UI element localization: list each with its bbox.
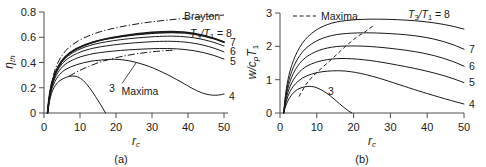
curve-b-3 bbox=[284, 86, 352, 113]
x-tick-label-b-50: 50 bbox=[458, 121, 470, 133]
panel-b-x-axis-title: rc bbox=[368, 134, 376, 149]
y-axis-title-sub: th bbox=[8, 55, 17, 62]
curve-label-a-5: 5 bbox=[230, 55, 236, 67]
x-tick-label-40: 40 bbox=[182, 121, 194, 133]
y-tick-label-b-3: 3 bbox=[266, 7, 272, 19]
curve-a-7 bbox=[48, 36, 225, 113]
curve-a-5 bbox=[48, 49, 225, 113]
curve-a-maxima bbox=[69, 50, 175, 76]
x-tick-label-10: 10 bbox=[74, 121, 86, 133]
svg-text:w/cpT1: w/cpT1 bbox=[245, 44, 260, 79]
x-tick-label-30: 30 bbox=[146, 121, 158, 133]
panel-a-sub-label: (a) bbox=[114, 153, 127, 165]
curve-a-3 bbox=[48, 76, 106, 113]
panel-a-x-tick-labels: 0 10 20 30 40 50 bbox=[41, 121, 230, 133]
x-tick-label-20: 20 bbox=[110, 121, 122, 133]
figure-container: 0 0.2 0.4 0.6 0.8 0 10 20 30 40 50 ηth r… bbox=[0, 0, 486, 167]
curve-b-5 bbox=[284, 58, 464, 113]
panel-b-y-tick-labels: 0 1 2 3 bbox=[266, 7, 272, 119]
chart-panel-b: 0 1 2 3 0 10 20 30 40 50 w/cpT1 rc (b) bbox=[243, 0, 486, 167]
curve-label-b-3: 3 bbox=[328, 85, 334, 97]
y-tick-label-0.6: 0.6 bbox=[21, 31, 36, 43]
curve-b-maxima bbox=[299, 25, 375, 97]
maxima-leader-line bbox=[122, 63, 136, 84]
x-tick-label-0: 0 bbox=[41, 121, 47, 133]
curve-label-a-3: 3 bbox=[109, 82, 115, 94]
curve-label-b-5: 5 bbox=[469, 76, 475, 88]
panel-b-svg: 0 1 2 3 0 10 20 30 40 50 w/cpT1 rc (b) bbox=[243, 0, 486, 167]
maxima-legend-label: Maxima bbox=[321, 10, 358, 22]
panel-b-axes bbox=[275, 13, 464, 118]
chart-panel-a: 0 0.2 0.4 0.6 0.8 0 10 20 30 40 50 ηth r… bbox=[0, 0, 243, 167]
curve-label-b-4: 4 bbox=[469, 98, 475, 110]
ratio-label-a: T3/T1 = 8 bbox=[190, 27, 232, 41]
curve-b-7 bbox=[284, 33, 464, 113]
y-tick-label-b-2: 2 bbox=[266, 40, 272, 52]
y-tick-label-0.8: 0.8 bbox=[21, 6, 36, 18]
y-tick-label-0: 0 bbox=[30, 107, 36, 119]
panel-b-x-tick-labels: 0 10 20 30 40 50 bbox=[277, 121, 470, 133]
maxima-label-a: Maxima bbox=[122, 85, 159, 97]
panel-a-x-axis-title: rc bbox=[132, 134, 140, 149]
y-tick-label-b-1: 1 bbox=[266, 74, 272, 86]
x-tick-label-b-20: 20 bbox=[347, 121, 359, 133]
panel-b-y-axis-title: w/cpT1 bbox=[245, 44, 260, 79]
y-tick-label-0.2: 0.2 bbox=[21, 82, 36, 94]
x-tick-label-b-0: 0 bbox=[277, 121, 283, 133]
x-tick-label-50: 50 bbox=[218, 121, 230, 133]
curve-label-b-6: 6 bbox=[469, 60, 475, 72]
panel-a-y-tick-labels: 0 0.2 0.4 0.6 0.8 bbox=[21, 6, 36, 119]
curve-label-a-4: 4 bbox=[229, 90, 235, 102]
x-tick-label-b-40: 40 bbox=[421, 121, 433, 133]
panel-b-curves bbox=[284, 19, 464, 113]
panel-b-sub-label: (b) bbox=[355, 153, 368, 165]
ratio-label-b: T3/T1 = 8 bbox=[408, 8, 450, 22]
panel-a-curve-family bbox=[48, 32, 225, 113]
panel-b-legend: Maxima bbox=[293, 10, 358, 22]
curve-b-4 bbox=[284, 71, 464, 113]
curve-b-6 bbox=[284, 46, 464, 113]
x-tick-label-b-30: 30 bbox=[384, 121, 396, 133]
x-tick-label-b-10: 10 bbox=[311, 121, 323, 133]
panel-a-y-axis-title: ηth bbox=[2, 55, 17, 69]
y-tick-label-0.4: 0.4 bbox=[21, 57, 36, 69]
svg-text:ηth: ηth bbox=[2, 55, 17, 69]
y-tick-label-b-0: 0 bbox=[266, 107, 272, 119]
brayton-label: Brayton bbox=[184, 10, 220, 22]
curve-a-8 bbox=[48, 32, 225, 113]
panel-a-svg: 0 0.2 0.4 0.6 0.8 0 10 20 30 40 50 ηth r… bbox=[0, 0, 243, 167]
curve-label-b-7: 7 bbox=[469, 43, 475, 55]
